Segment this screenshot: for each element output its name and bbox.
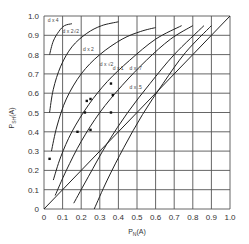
x-tick-label: 0.1 bbox=[57, 213, 69, 222]
x-tick-label: 0.2 bbox=[76, 213, 88, 222]
data-point bbox=[112, 94, 114, 96]
y-tick-label: 0.9 bbox=[28, 31, 40, 40]
y-tick-label: 1.0 bbox=[28, 12, 40, 21]
curve-label: d x 4 bbox=[48, 17, 59, 23]
curve-label: d x .7 bbox=[130, 65, 142, 71]
x-tick-label: 0.9 bbox=[206, 213, 218, 222]
data-point bbox=[89, 129, 91, 131]
y-tick-label: 0 bbox=[35, 205, 40, 214]
curve-label: d x .5 bbox=[130, 84, 142, 90]
y-tick-label: 0.1 bbox=[28, 186, 40, 195]
y-tick-label: 0.2 bbox=[28, 166, 40, 175]
x-tick-label: 0.6 bbox=[150, 213, 162, 222]
y-tick-label: 0.7 bbox=[28, 70, 40, 79]
data-point bbox=[48, 158, 50, 160]
y-tick-label: 0.6 bbox=[28, 89, 40, 98]
y-tick-label: 0.4 bbox=[28, 128, 40, 137]
data-point bbox=[84, 111, 86, 113]
y-tick-label: 0.5 bbox=[28, 109, 40, 118]
y-tick-label: 0.3 bbox=[28, 147, 40, 156]
y-axis-ticks: 00.10.20.30.40.50.60.70.80.91.0 bbox=[28, 12, 40, 214]
data-point bbox=[89, 98, 91, 100]
data-point bbox=[76, 131, 78, 133]
x-axis-label: PN(A) bbox=[128, 228, 146, 237]
curve-label: d x 2√2 bbox=[63, 28, 80, 34]
curve-label: d x √2 bbox=[100, 61, 114, 67]
curve-label: d x 2 bbox=[83, 46, 94, 52]
x-tick-label: 0.5 bbox=[131, 213, 143, 222]
x-tick-label: 0.4 bbox=[113, 213, 125, 222]
x-tick-label: 0 bbox=[42, 213, 47, 222]
curve-label: d x 1 bbox=[113, 65, 124, 71]
data-point bbox=[110, 111, 112, 113]
y-tick-label: 0.8 bbox=[28, 51, 40, 60]
x-tick-label: 1.0 bbox=[224, 213, 236, 222]
x-tick-label: 0.8 bbox=[187, 213, 199, 222]
chart: 00.10.20.30.40.50.60.70.80.91.0 00.10.20… bbox=[0, 0, 249, 244]
x-tick-label: 0.3 bbox=[94, 213, 106, 222]
x-axis-ticks: 00.10.20.30.40.50.60.70.80.91.0 bbox=[42, 213, 236, 222]
y-axis-label: PSH(A) bbox=[8, 108, 17, 129]
data-point bbox=[86, 100, 88, 102]
data-point bbox=[110, 82, 112, 84]
x-tick-label: 0.7 bbox=[169, 213, 181, 222]
